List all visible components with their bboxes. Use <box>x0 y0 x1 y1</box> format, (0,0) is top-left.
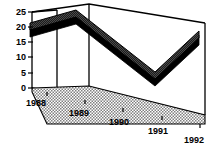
x-axis-label-1989: 1989 <box>69 108 89 118</box>
chart-svg: 25 20 15 10 5 0 1988 1989 1990 1991 1992 <box>0 0 216 146</box>
y-axis-labels: 25 20 15 10 5 0 <box>16 7 26 93</box>
y-axis-label-20: 20 <box>16 22 26 32</box>
data-ribbon <box>30 10 199 86</box>
y-axis-label-15: 15 <box>16 37 26 47</box>
y-axis-label-10: 10 <box>16 52 26 62</box>
ribbon-side-face <box>30 14 199 86</box>
y-axis-label-0: 0 <box>21 83 26 93</box>
chart-container: 25 20 15 10 5 0 1988 1989 1990 1991 1992 <box>0 0 216 146</box>
x-axis-label-1991: 1991 <box>148 126 168 136</box>
x-axis-label-1988: 1988 <box>26 98 46 108</box>
y-axis-label-5: 5 <box>21 68 26 78</box>
y-axis-label-25: 25 <box>16 7 26 17</box>
x-axis-label-1990: 1990 <box>109 117 129 127</box>
x-axis-label-1992: 1992 <box>184 135 204 145</box>
